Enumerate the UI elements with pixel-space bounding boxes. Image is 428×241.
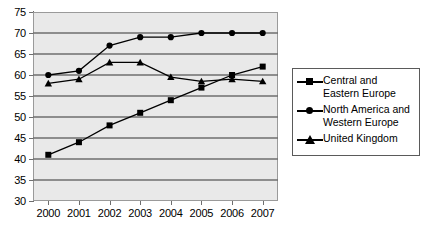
y-axis-tick-label: 40 — [2, 153, 26, 165]
x-axis-tick — [201, 201, 202, 205]
chart-legend: Central and Eastern Europe North America… — [292, 68, 420, 156]
y-axis-tick-label: 30 — [2, 195, 26, 207]
x-axis-tick — [263, 201, 264, 205]
x-axis-tick — [110, 201, 111, 205]
legend-item-label: United Kingdom — [323, 132, 398, 145]
series-layer — [33, 12, 278, 201]
triangle-marker-icon — [297, 133, 323, 146]
line-chart: 30354045505560657075 2000200120022003200… — [0, 0, 428, 241]
y-axis-tick-label: 70 — [2, 27, 26, 39]
legend-item-north-america-and-western-europe[interactable]: North America and Western Europe — [297, 103, 415, 128]
y-axis-tick-label: 45 — [2, 132, 26, 144]
y-axis-tick-label: 75 — [2, 6, 26, 18]
x-axis-tick — [140, 201, 141, 205]
legend-item-label: Central and Eastern Europe — [323, 74, 415, 99]
y-axis-tick-label: 60 — [2, 69, 26, 81]
y-axis-tick-label: 35 — [2, 174, 26, 186]
y-axis-tick-label: 65 — [2, 48, 26, 60]
legend-item-label: North America and Western Europe — [323, 103, 415, 128]
circle-marker-icon — [297, 104, 323, 117]
y-axis-tick-label: 50 — [2, 111, 26, 123]
x-axis-tick — [232, 201, 233, 205]
square-marker-icon — [297, 75, 323, 88]
x-axis-tick-label: 2007 — [243, 207, 283, 219]
x-axis-tick — [79, 201, 80, 205]
y-axis-tick — [29, 201, 33, 202]
y-axis-tick-label: 55 — [2, 90, 26, 102]
x-axis-tick — [48, 201, 49, 205]
legend-item-united-kingdom[interactable]: United Kingdom — [297, 132, 415, 146]
legend-item-central-and-eastern-europe[interactable]: Central and Eastern Europe — [297, 74, 415, 99]
x-axis-tick — [171, 201, 172, 205]
